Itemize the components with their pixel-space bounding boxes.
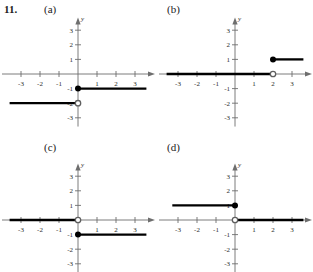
y-axis-label: y (237, 15, 242, 23)
closed-endpoint-dot (75, 86, 81, 92)
x-tick-label: -3 (18, 80, 24, 88)
y-tick-label: -3 (224, 260, 230, 268)
y-tick-label: 3 (227, 173, 231, 181)
panel-a-plot: -3-2-1123321-1-2-3xy (0, 0, 156, 136)
x-tick-label: -3 (18, 226, 24, 234)
closed-endpoint-dot (75, 232, 81, 238)
y-tick-label: -3 (67, 114, 73, 122)
y-tick-label: 2 (227, 41, 231, 49)
x-axis-arrow (148, 71, 155, 76)
x-tick-label: 2 (114, 226, 118, 234)
y-tick-label: -3 (67, 260, 73, 268)
x-tick-label: -2 (194, 80, 200, 88)
x-tick-label: -1 (213, 226, 219, 234)
panel-c: (c) -3-2-1123321-1-2-3xy (0, 136, 156, 272)
x-tick-label: -1 (56, 80, 62, 88)
x-tick-label: -3 (175, 80, 181, 88)
y-tick-label: 3 (70, 173, 74, 181)
y-tick-label: -1 (67, 231, 73, 239)
y-axis-arrow (75, 18, 80, 25)
figure-page: 11. (a) -3-2-1123321-1-2-3xy (b) -3-2-11… (0, 0, 313, 272)
graph-a: -3-2-1123321-1-2-3xy (0, 0, 156, 136)
y-axis-label: y (80, 15, 85, 23)
y-axis-label: y (237, 161, 242, 169)
x-tick-label: 3 (133, 226, 137, 234)
graph-d: -3-2-1123321-1-2-3xy (157, 136, 313, 272)
open-endpoint-circle (75, 101, 80, 106)
x-tick-label: -3 (175, 226, 181, 234)
y-tick-label: -1 (224, 231, 230, 239)
closed-endpoint-dot (232, 202, 238, 208)
y-tick-label: 1 (227, 56, 231, 64)
x-tick-label: 2 (271, 80, 275, 88)
y-axis-label: y (80, 161, 85, 169)
y-tick-label: 3 (227, 27, 231, 35)
x-tick-label: -2 (194, 226, 200, 234)
x-tick-label: 2 (271, 226, 275, 234)
y-tick-label: -3 (224, 114, 230, 122)
y-axis-arrow (232, 164, 237, 171)
y-tick-label: 3 (70, 27, 74, 35)
graph-b: -3-2-1123321-1-2-3xy (157, 0, 313, 136)
closed-endpoint-dot (270, 56, 276, 62)
panel-d-plot: -3-2-1123321-1-2-3xy (157, 136, 313, 272)
y-tick-label: -2 (224, 100, 230, 108)
panel-d: (d) -3-2-1123321-1-2-3xy (157, 136, 313, 272)
y-tick-label: 2 (70, 187, 74, 195)
panel-c-plot: -3-2-1123321-1-2-3xy (0, 136, 156, 272)
open-endpoint-circle (270, 71, 275, 76)
x-tick-label: 3 (133, 80, 137, 88)
y-tick-label: 1 (70, 202, 74, 210)
x-tick-label: 2 (114, 80, 118, 88)
y-axis-arrow (75, 164, 80, 171)
x-tick-label: -2 (37, 80, 43, 88)
x-tick-label: -2 (37, 226, 43, 234)
y-tick-label: 2 (70, 41, 74, 49)
x-axis-arrow (148, 217, 155, 222)
x-tick-label: 1 (95, 80, 99, 88)
panel-b-plot: -3-2-1123321-1-2-3xy (157, 0, 313, 136)
x-tick-label: -1 (213, 80, 219, 88)
graph-c: -3-2-1123321-1-2-3xy (0, 136, 156, 272)
y-axis-arrow (232, 18, 237, 25)
x-tick-label: -1 (56, 226, 62, 234)
open-endpoint-circle (75, 217, 80, 222)
y-tick-label: -2 (224, 246, 230, 254)
y-tick-label: -1 (67, 85, 73, 93)
open-endpoint-circle (232, 217, 237, 222)
x-axis-arrow (305, 71, 312, 76)
y-tick-label: -2 (67, 246, 73, 254)
y-tick-label: 2 (227, 187, 231, 195)
y-tick-label: -1 (224, 85, 230, 93)
x-tick-label: 3 (290, 226, 294, 234)
x-tick-label: 1 (252, 80, 256, 88)
x-tick-label: 1 (95, 226, 99, 234)
panel-b: (b) -3-2-1123321-1-2-3xy (157, 0, 313, 136)
x-tick-label: 3 (290, 80, 294, 88)
x-axis-arrow (305, 217, 312, 222)
y-tick-label: 1 (70, 56, 74, 64)
x-tick-label: 1 (252, 226, 256, 234)
panel-a: (a) -3-2-1123321-1-2-3xy (0, 0, 156, 136)
